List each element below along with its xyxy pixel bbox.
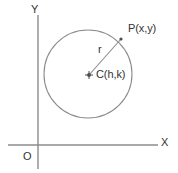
circle-diagram: Y X O r P(x,y) C(h,k) bbox=[0, 0, 178, 173]
y-axis-label: Y bbox=[31, 4, 38, 15]
x-axis-label: X bbox=[161, 137, 168, 148]
point-p-label: P(x,y) bbox=[128, 23, 156, 34]
origin-label: O bbox=[23, 151, 31, 162]
center-label: C(h,k) bbox=[96, 69, 125, 80]
point-p-dot-icon bbox=[119, 37, 122, 40]
radius-label: r bbox=[98, 44, 102, 55]
